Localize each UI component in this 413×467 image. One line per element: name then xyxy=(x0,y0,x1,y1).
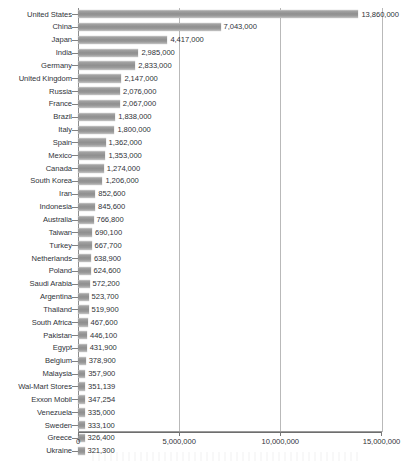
value-label: 13,860,000 xyxy=(361,9,399,20)
plot-area: United States13,860,000China7,043,000Jap… xyxy=(0,0,413,467)
bar xyxy=(78,10,358,18)
category-label: Exxon Mobil xyxy=(31,394,72,405)
bar-row: Turkey667,700 xyxy=(0,239,413,252)
category-label: Mexico xyxy=(48,150,72,161)
bar-row: Egypt431,900 xyxy=(0,342,413,355)
bar xyxy=(78,74,121,82)
category-label: Thailand xyxy=(43,304,72,315)
bar xyxy=(78,370,85,378)
bar xyxy=(78,126,114,134)
bar-row: Pakistan446,100 xyxy=(0,329,413,342)
category-label: South Africa xyxy=(32,317,72,328)
value-label: 519,900 xyxy=(92,304,119,315)
bar-row: Brazil1,838,000 xyxy=(0,111,413,124)
category-label: Russia xyxy=(49,86,72,97)
value-label: 467,600 xyxy=(91,317,118,328)
value-label: 351,139 xyxy=(88,381,115,392)
x-axis-tick-labels: 05,000,00010,000,00015,000,000 xyxy=(0,436,413,452)
value-label: 2,076,000 xyxy=(123,86,156,97)
bar xyxy=(78,87,120,95)
bar-row: Sweden333,100 xyxy=(0,419,413,432)
value-label: 7,043,000 xyxy=(224,21,257,32)
bar xyxy=(78,421,85,429)
value-label: 357,900 xyxy=(88,368,115,379)
category-label: Canada xyxy=(46,163,72,174)
bar-row: Argentina523,700 xyxy=(0,291,413,304)
bar xyxy=(78,49,138,57)
bar-row: Mexico1,353,000 xyxy=(0,149,413,162)
bar xyxy=(78,241,92,249)
category-label: Argentina xyxy=(40,291,72,302)
x-tick-label: 15,000,000 xyxy=(363,436,401,447)
bar-row: Australia766,800 xyxy=(0,214,413,227)
bar-row: Belgium378,900 xyxy=(0,355,413,368)
value-label: 4,417,000 xyxy=(170,34,203,45)
bar-row: South Africa467,600 xyxy=(0,316,413,329)
category-label: Pakistan xyxy=(43,330,72,341)
bar-row: Spain1,362,000 xyxy=(0,136,413,149)
bar-row: India2,985,000 xyxy=(0,47,413,60)
bar xyxy=(78,382,85,390)
value-label: 2,833,000 xyxy=(138,60,171,71)
bar-row: Canada1,274,000 xyxy=(0,162,413,175)
value-label: 852,600 xyxy=(98,188,125,199)
category-label: Sweden xyxy=(45,420,72,431)
category-label: Japan xyxy=(52,34,72,45)
category-label: Malaysia xyxy=(42,368,72,379)
bar xyxy=(78,254,91,262)
bar-row: Thailand519,900 xyxy=(0,303,413,316)
bar-row: Poland624,600 xyxy=(0,265,413,278)
bar-row: Venezuela335,000 xyxy=(0,406,413,419)
value-label: 1,274,000 xyxy=(107,163,140,174)
bar-row: Russia2,076,000 xyxy=(0,85,413,98)
category-label: France xyxy=(49,98,72,109)
value-label: 572,200 xyxy=(93,278,120,289)
value-label: 333,100 xyxy=(88,420,115,431)
bar-row: Saudi Arabia572,200 xyxy=(0,278,413,291)
value-label: 1,353,000 xyxy=(108,150,141,161)
value-label: 845,600 xyxy=(98,201,125,212)
bar xyxy=(78,164,104,172)
value-label: 1,800,000 xyxy=(117,124,150,135)
category-label: Venezuela xyxy=(37,407,72,418)
category-label: Taiwan xyxy=(49,227,72,238)
category-label: Indonesia xyxy=(40,201,72,212)
x-tick-label: 10,000,000 xyxy=(262,436,300,447)
category-label: Wal-Mart Stores xyxy=(18,381,72,392)
bar-row: Italy1,800,000 xyxy=(0,124,413,137)
category-label: Australia xyxy=(43,214,72,225)
bar xyxy=(78,138,106,146)
bar-row: Netherlands638,900 xyxy=(0,252,413,265)
bar-row: United Kingdom2,147,000 xyxy=(0,72,413,85)
bar-row: Taiwan690,100 xyxy=(0,226,413,239)
bar xyxy=(78,177,102,185)
bar-row: Iran852,600 xyxy=(0,188,413,201)
bar-row: Malaysia357,900 xyxy=(0,368,413,381)
category-label: Poland xyxy=(49,265,72,276)
x-tick-label: 0 xyxy=(76,436,80,447)
value-label: 1,838,000 xyxy=(118,111,151,122)
value-label: 335,000 xyxy=(88,407,115,418)
value-label: 1,362,000 xyxy=(109,137,142,148)
category-label: Iran xyxy=(59,188,72,199)
scan-artifact xyxy=(92,452,362,461)
category-label: Belgium xyxy=(45,355,72,366)
value-label: 1,206,000 xyxy=(105,175,138,186)
bar-chart: United States13,860,000China7,043,000Jap… xyxy=(0,0,413,467)
bar xyxy=(78,305,89,313)
x-tick-label: 5,000,000 xyxy=(163,436,196,447)
bar xyxy=(78,203,95,211)
value-label: 446,100 xyxy=(90,330,117,341)
value-label: 431,900 xyxy=(90,342,117,353)
bar xyxy=(78,61,135,69)
value-label: 766,800 xyxy=(97,214,124,225)
bar-row: Germany2,833,000 xyxy=(0,59,413,72)
bar-row: China7,043,000 xyxy=(0,21,413,34)
bar-row: Indonesia845,600 xyxy=(0,201,413,214)
category-label: Germany xyxy=(41,60,72,71)
value-label: 690,100 xyxy=(95,227,122,238)
value-label: 638,900 xyxy=(94,253,121,264)
category-label: Turkey xyxy=(49,240,72,251)
bar xyxy=(78,331,87,339)
bar xyxy=(78,344,87,352)
